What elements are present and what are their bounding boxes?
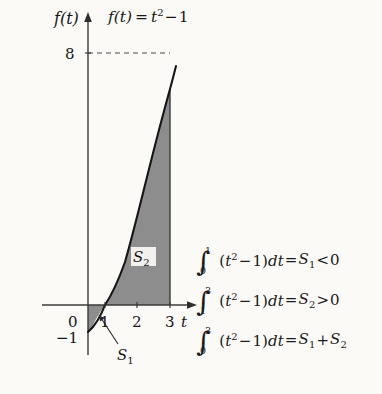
integrand-2: (t2−1)dt [219, 291, 284, 310]
differential-3: dt [268, 332, 284, 350]
integrand-exp-3: 2 [231, 331, 237, 342]
result-1: S1 [299, 250, 316, 270]
equation-row-1: ∫10 (t2−1)dt = S1 < 0 [196, 240, 382, 280]
equation-row-2: ∫31 (t2−1)dt = S2 > 0 [196, 280, 382, 320]
s2-label-letter: S [133, 248, 143, 266]
s1-label-letter: S [117, 346, 127, 364]
equals-2: = [284, 291, 299, 309]
relation-value-3: S2 [330, 330, 347, 350]
integrand-1: (t2−1)dt [219, 251, 284, 270]
result-3: S1 [299, 330, 316, 350]
s2-label-sub: 2 [143, 257, 149, 268]
integrand-const-2: 1 [252, 292, 262, 310]
min-value-label: −1 [56, 329, 78, 347]
integral-lower-limit-2: 1 [200, 306, 206, 316]
result-letter-2: S [299, 290, 309, 308]
integral-upper-limit-2: 3 [205, 286, 211, 296]
differential-1: dt [268, 252, 284, 270]
result-2: S2 [299, 290, 316, 310]
equation-list: ∫10 (t2−1)dt = S1 < 0 ∫31 (t2−1)dt = S2 … [196, 240, 382, 360]
result-letter-3: S [299, 330, 309, 348]
integrand-minus-2: − [238, 292, 253, 310]
integrand-minus-1: − [238, 252, 253, 270]
y-tick-label-8: 8 [65, 45, 75, 63]
relation-value-letter-3: S [330, 330, 340, 348]
integrand-const-3: 1 [252, 332, 262, 350]
integral-sign-1: ∫10 [196, 248, 210, 275]
relation-3: + [315, 331, 330, 349]
figure-page: f(t) f(t)=t2−1 8 0 1 2 3 t −1 S2 [0, 0, 382, 394]
x-tick-label-3: 3 [165, 313, 175, 331]
integrand-const-1: 1 [252, 252, 262, 270]
integral-lower-limit-3: 0 [200, 346, 206, 356]
relation-value-1: 0 [330, 251, 340, 269]
x-tick-label-1: 1 [100, 313, 110, 331]
integral-lower-limit-1: 0 [200, 266, 206, 276]
integrand-3: (t2−1)dt [219, 331, 284, 350]
x-axis-label: t [181, 313, 188, 331]
integrand-exp-2: 2 [231, 291, 237, 302]
curve-equation-constant: 1 [179, 8, 189, 26]
curve-equation-exponent: 2 [157, 7, 163, 18]
equation-row-3: ∫30 (t2−1)dt = S1 + S2 [196, 320, 382, 360]
integral-upper-limit-3: 3 [205, 326, 211, 336]
s1-label-sub: 1 [127, 355, 133, 366]
integral-upper-limit-1: 1 [205, 246, 211, 256]
relation-value-2: 0 [330, 291, 340, 309]
equals-1: = [284, 251, 299, 269]
integrand-minus-3: − [238, 332, 253, 350]
result-letter-1: S [299, 250, 309, 268]
y-axis-arrowhead [84, 12, 92, 22]
relation-2: > [315, 291, 330, 309]
relation-value-text-2: 0 [330, 291, 340, 309]
curve-equation-equals: = [135, 8, 148, 26]
s1-label: S1 [117, 346, 134, 366]
relation-1: < [315, 251, 330, 269]
integrand-exp-1: 2 [231, 251, 237, 262]
integral-sign-2: ∫31 [196, 288, 210, 315]
differential-2: dt [268, 292, 284, 310]
relation-value-sub-3: 2 [340, 339, 346, 350]
y-axis-label: f(t) [53, 9, 79, 28]
equals-3: = [284, 331, 299, 349]
curve-equation-minus: − [165, 8, 178, 26]
curve-equation-fname: f(t) [107, 8, 132, 26]
graph-figure: f(t) f(t)=t2−1 8 0 1 2 3 t −1 S2 [0, 0, 215, 394]
x-tick-label-2: 2 [132, 313, 142, 331]
integral-sign-3: ∫30 [196, 328, 210, 355]
curve-equation-label: f(t)=t2−1 [107, 7, 189, 26]
relation-value-text-1: 0 [330, 251, 340, 269]
